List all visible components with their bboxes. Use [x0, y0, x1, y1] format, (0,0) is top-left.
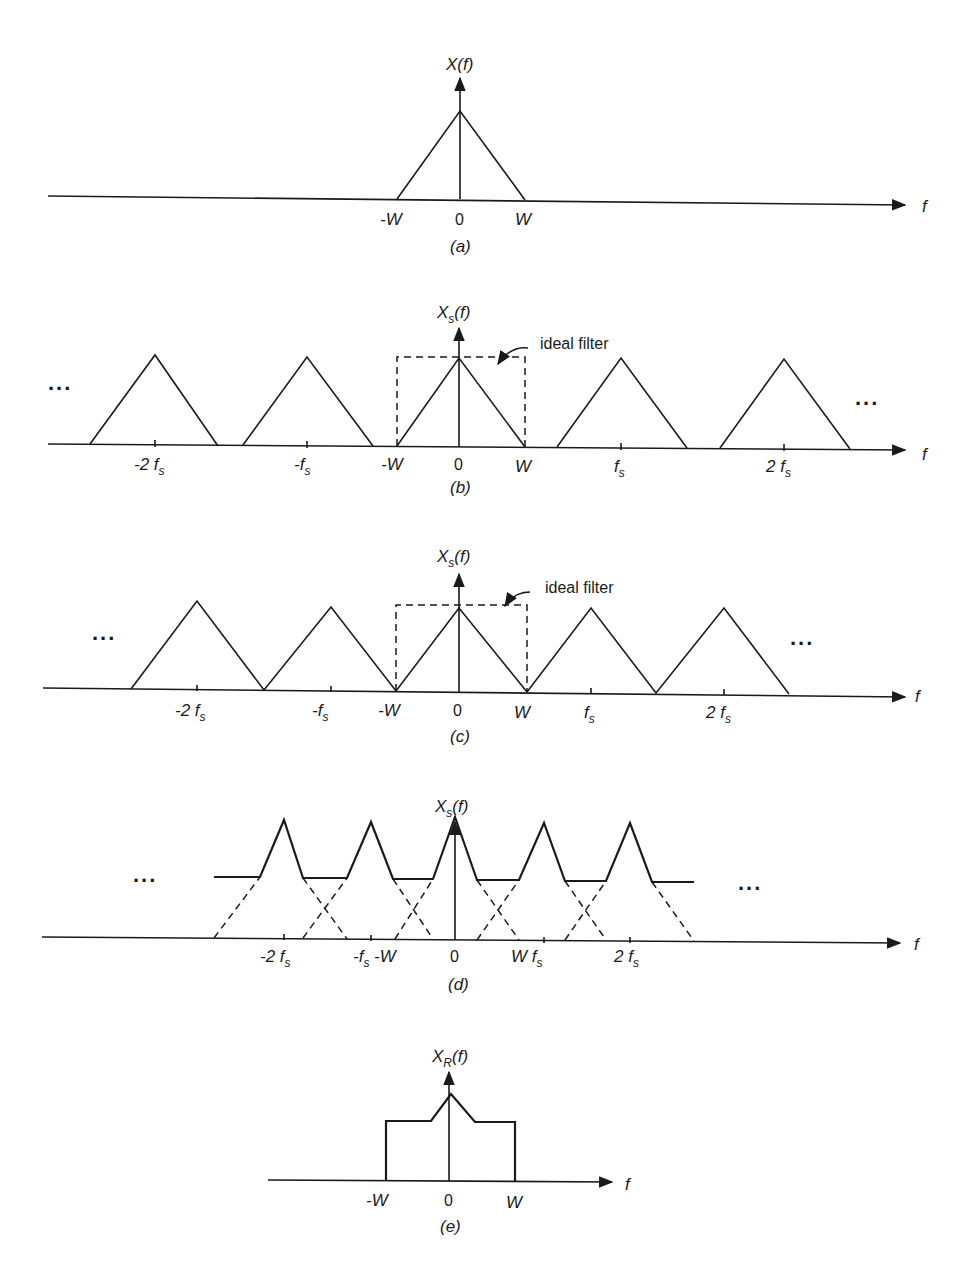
tick-label: 0 [453, 702, 462, 719]
spectrum-triangle [397, 111, 525, 200]
spectrum-replica [90, 355, 218, 446]
ellipsis-left: ... [133, 862, 157, 887]
tick-label: -fs [312, 701, 328, 724]
panel-caption: (c) [450, 727, 470, 746]
tick-label: -W [378, 701, 402, 720]
spectrum-replica [720, 359, 850, 449]
annotation-ideal-filter: ideal filter [545, 579, 614, 596]
spectrum-replica [131, 601, 789, 694]
tick-label-w: W [515, 210, 533, 229]
tick-label: fs [584, 703, 595, 726]
panel-a: X(f) f -W 0 W (a) [48, 55, 929, 256]
f-axis [48, 444, 905, 450]
tick-label: 0 [450, 948, 459, 965]
ellipsis-left: ... [92, 620, 116, 645]
ideal-filter-outline [396, 605, 527, 692]
y-axis-label: XR(f) [431, 1047, 468, 1070]
ellipsis-right: ... [855, 385, 879, 410]
x-axis-label: f [914, 935, 921, 954]
f-axis [48, 196, 905, 205]
spectrum-replica [243, 357, 373, 446]
sampling-spectra-diagram: X(f) f -W 0 W (a) ideal filter Xs(f) ...… [0, 0, 966, 1262]
tick-label-w: W [506, 1193, 524, 1212]
annotation-arrow [498, 348, 528, 364]
panel-caption: (e) [440, 1217, 461, 1236]
tick-label: -fs [294, 455, 310, 478]
spectrum-replica [557, 358, 687, 448]
y-axis-label: Xs(f) [436, 303, 470, 326]
tick-label: W fs [511, 947, 543, 970]
panel-c: ideal filter Xs(f) ... ... f -2 fs -fs -… [43, 547, 922, 746]
ellipsis-right: ... [790, 625, 814, 650]
overlapping-replicas [214, 877, 694, 941]
ellipsis-left: ... [48, 370, 72, 395]
tick-label-zero: 0 [455, 211, 464, 228]
tick-label: -2 fs [175, 701, 206, 724]
tick-label: -fs -W [353, 947, 398, 970]
tick-label: 2 fs [705, 703, 731, 726]
tick-label: 2 fs [765, 457, 791, 480]
tick-label: -2 fs [260, 947, 291, 970]
x-axis-label: f [915, 687, 922, 706]
panel-caption: (a) [450, 237, 471, 256]
x-axis-label: f [625, 1175, 632, 1194]
reconstructed-spectrum [386, 1094, 515, 1182]
f-axis [43, 688, 905, 697]
annotation-ideal-filter: ideal filter [540, 335, 609, 352]
f-axis [268, 1180, 612, 1182]
tick-label: W [514, 703, 532, 722]
annotation-arrow [505, 592, 530, 606]
tick-label: -W [381, 455, 405, 474]
tick-label: 0 [454, 456, 463, 473]
y-axis-label: Xs(f) [436, 547, 470, 570]
aliased-spectrum-sum [214, 817, 694, 882]
panel-b: ideal filter Xs(f) ... ... f -2 fs -fs -… [48, 303, 929, 497]
f-axis [42, 937, 900, 943]
panel-e: XR(f) f -W 0 W (e) [268, 1047, 632, 1236]
y-axis-label: Xs(f) [434, 797, 468, 820]
tick-label-neg-w: -W [366, 1191, 390, 1210]
tick-label-neg-w: -W [380, 210, 404, 229]
x-axis-label: f [922, 445, 929, 464]
tick-label: fs [614, 457, 625, 480]
tick-label: W [515, 457, 533, 476]
ellipsis-right: ... [738, 870, 762, 895]
y-axis-label: X(f) [445, 55, 473, 74]
x-axis-label: f [922, 197, 929, 216]
panel-caption: (b) [450, 478, 471, 497]
tick-label: 2 fs [613, 947, 639, 970]
spectrum-replica [397, 358, 525, 447]
ideal-filter-outline [397, 357, 525, 447]
panel-d: Xs(f) ... ... f -2 fs -fs -W 0 W fs 2 fs… [42, 797, 921, 994]
tick-label: -2 fs [134, 455, 165, 478]
tick-label-zero: 0 [444, 1192, 453, 1209]
panel-caption: (d) [448, 975, 469, 994]
